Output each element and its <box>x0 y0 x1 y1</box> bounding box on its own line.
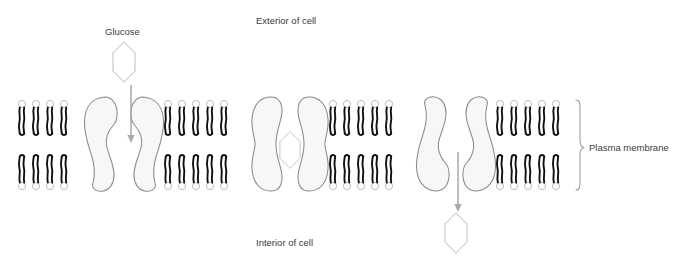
interior-of-cell-label: Interior of cell <box>256 237 313 248</box>
membrane-transport-diagram: Exterior of cell Interior of cell Glucos… <box>0 0 695 268</box>
plasma-membrane-label: Plasma membrane <box>589 142 669 153</box>
diagram-canvas: Exterior of cell Interior of cell Glucos… <box>0 0 695 268</box>
glucose-label: Glucose <box>105 26 140 37</box>
exterior-of-cell-label: Exterior of cell <box>256 15 316 26</box>
